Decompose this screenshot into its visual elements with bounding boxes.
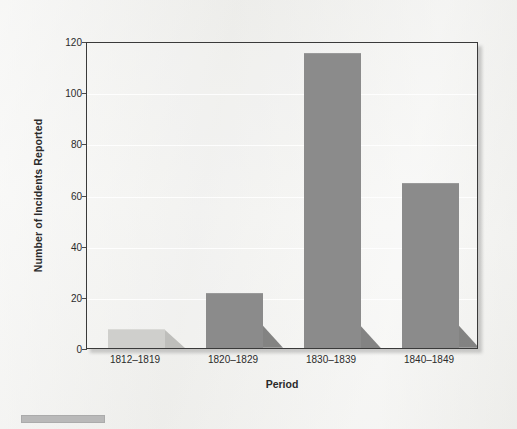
y-axis-ticks: 020406080100120 — [38, 42, 82, 349]
y-axis-tick-label: 20 — [46, 292, 82, 303]
bar-shadow — [165, 330, 187, 348]
x-axis-tick-label: 1820–1829 — [208, 354, 258, 365]
y-axis-tick-label: 60 — [46, 190, 82, 201]
bar-rect — [402, 183, 459, 348]
x-axis-tick-label: 1840–1849 — [404, 354, 454, 365]
bar-shadow — [263, 294, 285, 348]
plot-area — [86, 42, 478, 349]
bar-rect — [108, 329, 165, 348]
x-axis-tick-label: 1830–1839 — [306, 354, 356, 365]
plot-inner — [87, 43, 477, 348]
bar — [304, 54, 361, 348]
bar-rect — [304, 53, 361, 348]
y-axis-tick-label: 120 — [46, 37, 82, 48]
bar — [402, 184, 459, 348]
bar-rect — [206, 293, 263, 348]
x-axis-tick-labels: 1812–18191820–18291830–18391840–1849 — [86, 354, 478, 370]
x-axis-tick-label: 1812–1819 — [110, 354, 160, 365]
gridline — [87, 145, 477, 146]
y-axis-tick-mark — [82, 349, 87, 350]
bar — [206, 294, 263, 348]
page-background: Number of Incidents Reported 02040608010… — [0, 0, 517, 429]
gridline — [87, 94, 477, 95]
bar-chart-figure: Number of Incidents Reported 02040608010… — [18, 16, 505, 401]
bar — [108, 330, 165, 348]
y-axis-tick-label: 40 — [46, 241, 82, 252]
x-axis-title: Period — [86, 378, 478, 390]
bar-shadow — [459, 184, 478, 348]
y-axis-tick-label: 0 — [46, 344, 82, 355]
caption-bar — [21, 415, 105, 423]
y-axis-tick-label: 80 — [46, 139, 82, 150]
y-axis-tick-label: 100 — [46, 88, 82, 99]
bar-shadow — [361, 54, 383, 348]
